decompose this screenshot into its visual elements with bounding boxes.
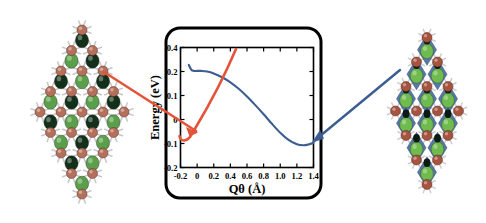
metal-atom [88, 46, 98, 56]
metal-atom [454, 106, 464, 116]
x-tick-label: 1.0 [275, 171, 286, 181]
x-tick-label: 0.4 [225, 171, 236, 181]
metal-atom [46, 87, 56, 97]
metal-atom [35, 107, 45, 117]
metal-atom [98, 107, 108, 117]
metal-atom [67, 128, 77, 138]
metal-atom [56, 66, 66, 76]
metal-atom [88, 128, 98, 138]
metal-atom [433, 57, 443, 67]
metal-atom [98, 148, 108, 158]
y-tick-label: 0.4 [167, 43, 178, 53]
x-tick-label: 0.6 [242, 171, 253, 181]
metal-atom [412, 155, 422, 165]
metal-atom [77, 25, 87, 35]
metal-atom [67, 169, 77, 179]
metal-atom [77, 107, 87, 117]
metal-atom [56, 107, 66, 117]
anion-atom-dark [434, 134, 441, 142]
metal-atom [422, 180, 432, 190]
metal-atom [433, 155, 443, 165]
x-tick-label: 0.2 [208, 171, 219, 181]
plot-axes-frame [181, 48, 314, 168]
metal-atom [433, 106, 443, 116]
x-axis-label: Qθ (Å) [229, 182, 266, 196]
metal-atom [77, 189, 87, 199]
metal-atom [77, 66, 87, 76]
x-tick-label: 1.2 [292, 171, 303, 181]
metal-atom [119, 107, 129, 117]
y-tick-label: -0.2 [164, 163, 178, 173]
metal-atom [109, 128, 119, 138]
x-tick-label: 1.4 [308, 171, 319, 181]
metal-atom [412, 57, 422, 67]
figure-root: -0.200.20.40.60.81.01.21.4 0.40.20.10-0.… [0, 0, 486, 223]
metal-atom [46, 128, 56, 138]
y-tick-label: -0.1 [164, 139, 178, 149]
metal-atom [77, 148, 87, 158]
metal-atom [88, 87, 98, 97]
metal-atom [67, 46, 77, 56]
metal-atom [422, 82, 432, 92]
anion-atom-dark [403, 110, 410, 118]
x-tick-label: 0 [195, 171, 199, 181]
metal-atom [443, 131, 453, 141]
x-tick-label: 0.8 [258, 171, 269, 181]
y-tick-label: 0.1 [167, 91, 178, 101]
anion-atom-dark [413, 134, 420, 142]
anion-atom-dark [445, 110, 452, 118]
metal-atom [443, 82, 453, 92]
metal-atom [67, 87, 77, 97]
y-tick-label: 0.2 [167, 67, 178, 77]
metal-atom [88, 169, 98, 179]
metal-atom [412, 106, 422, 116]
metal-atom [401, 82, 411, 92]
metal-atom [422, 33, 432, 43]
metal-atom [422, 131, 432, 141]
anion-atom-dark [424, 110, 431, 118]
metal-atom [401, 131, 411, 141]
anion-atom-dark [424, 159, 431, 167]
x-axis-tick-labels: -0.200.20.40.60.81.01.21.4 [174, 171, 320, 181]
metal-atom [109, 87, 119, 97]
metal-atom [56, 148, 66, 158]
metal-atom [391, 106, 401, 116]
